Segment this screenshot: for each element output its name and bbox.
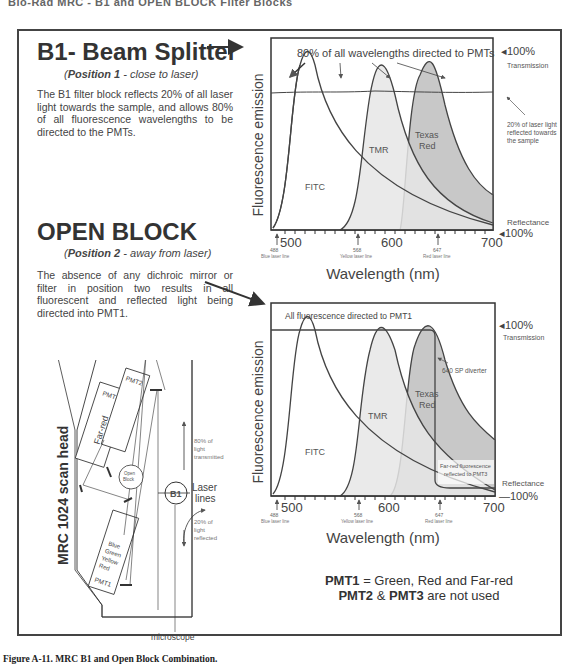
svg-text:488: 488 (270, 248, 279, 253)
scan-head-label: MRC 1024 scan head (55, 426, 71, 565)
chart1-xlabel: Wavelength (nm) (326, 265, 440, 282)
svg-text:Yellow laser line: Yellow laser line (340, 254, 373, 259)
laser-lines-label-2: lines (195, 493, 216, 504)
chart1-reflect-note-1: 20% of laser light (507, 121, 557, 129)
pmt-summary: PMT1 = Green, Red and Far-red PMT2 & PMT… (284, 573, 554, 603)
svg-text:transmitted: transmitted (194, 454, 224, 460)
farred-note-2: reflected to PMT3 (444, 471, 487, 477)
chart2-xlabel: Wavelength (nm) (326, 529, 440, 546)
chart2-ylabel: Fluorescence emission (250, 340, 266, 483)
b1-spectrum-chart: Fluorescence emission 80% of all wavelen… (245, 35, 565, 250)
chart1-xaxis-labels: 488 Blue laser line 568 Yellow laser lin… (245, 248, 565, 288)
svg-text:light: light (194, 446, 205, 452)
svg-text:Block: Block (123, 477, 135, 482)
svg-text:Open: Open (124, 471, 136, 476)
red-label-2: Red (419, 400, 436, 410)
chart2-100-top: ◂100% (499, 319, 533, 331)
texas-label: Texas (415, 130, 439, 140)
laser-lines-label-1: Laser (192, 482, 218, 493)
b1-label: B1 (170, 489, 182, 499)
svg-text:Blue laser line: Blue laser line (261, 254, 290, 259)
chart1-ylabel: Fluorescence emission (250, 73, 266, 216)
chart1-top-note: 80% of all wavelengths directed to PMTs (297, 47, 495, 59)
svg-text:568: 568 (353, 248, 362, 253)
fitc-label: FITC (305, 182, 325, 192)
microscope-label: microscope (151, 632, 195, 642)
tmr-label-2: TMR (368, 411, 388, 421)
svg-text:80% of: 80% of (194, 438, 213, 444)
svg-text:light: light (194, 527, 205, 533)
chart2-xaxis-labels: 488 Blue laser line 568 Yellow laser lin… (245, 513, 565, 553)
chart2-100-bottom: —100% (499, 490, 538, 502)
svg-text:Red laser line: Red laser line (425, 519, 453, 524)
svg-text:647: 647 (435, 513, 444, 518)
chart2-reflectance: Reflectance (502, 479, 545, 488)
scan-head-diagram: MRC 1024 scan head PMT3 Far-red PMT2 Blu… (20, 360, 250, 645)
fitc-label-2: FITC (305, 447, 325, 457)
chart1-100-top: ◂100% (501, 45, 535, 57)
svg-text:568: 568 (354, 513, 363, 518)
svg-text:Yellow laser line: Yellow laser line (341, 519, 374, 524)
svg-text:488: 488 (270, 513, 279, 518)
texas-label-2: Texas (415, 389, 439, 399)
red-label: Red (419, 141, 436, 151)
svg-text:Red laser line: Red laser line (423, 254, 451, 259)
chart1-transmission: Transmission (507, 62, 548, 69)
farred-note-1: Far-red fluorescence (440, 463, 491, 469)
chart1-100-bottom: ◂100% (499, 227, 533, 239)
svg-text:647: 647 (433, 248, 442, 253)
svg-text:20% of: 20% of (194, 519, 213, 525)
chart1-reflect-note-2: reflected towards (507, 129, 557, 136)
tmr-label: TMR (369, 145, 389, 155)
chart1-reflectance: Reflectance (507, 218, 550, 227)
chart2-top-note: All fluorescence directed to PMT1 (285, 311, 412, 321)
svg-text:Blue laser line: Blue laser line (261, 519, 290, 524)
chart2-diverter: 640 SP diverter (442, 367, 488, 374)
svg-text:reflected: reflected (194, 535, 217, 541)
chart1-reflect-note-3: the sample (507, 137, 539, 145)
open-block-spectrum-chart: Fluorescence emission All fluorescence d… (245, 300, 565, 515)
chart2-transmission: Transmission (503, 334, 544, 341)
figure-caption: Figure A-11. MRC B1 and Open Block Combi… (3, 654, 217, 664)
